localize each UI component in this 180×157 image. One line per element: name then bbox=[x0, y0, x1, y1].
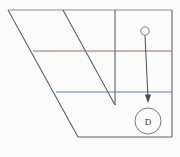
diagram-canvas: D bbox=[0, 0, 180, 157]
target-node-d-label: D bbox=[145, 117, 152, 127]
diagram-svg: D bbox=[0, 0, 180, 157]
source-node[interactable] bbox=[141, 27, 149, 35]
